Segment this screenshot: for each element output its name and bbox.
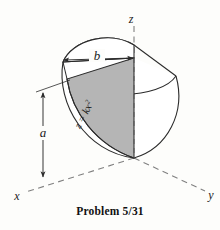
a-dimension-label: a — [40, 125, 47, 140]
figure-caption: Problem 5/31 — [0, 205, 220, 217]
paraboloid-diagram: b a z = kx 2 z x y — [0, 0, 220, 230]
b-dimension-label: b — [94, 48, 101, 63]
paraboloid-solid — [62, 38, 179, 158]
x-axis-label: x — [13, 189, 20, 203]
z-axis-label: z — [128, 12, 134, 26]
y-axis-line — [134, 158, 205, 191]
x-axis-line — [26, 158, 134, 192]
figure-container: b a z = kx 2 z x y Problem 5/31 — [0, 0, 220, 230]
y-axis-label: y — [207, 188, 214, 202]
